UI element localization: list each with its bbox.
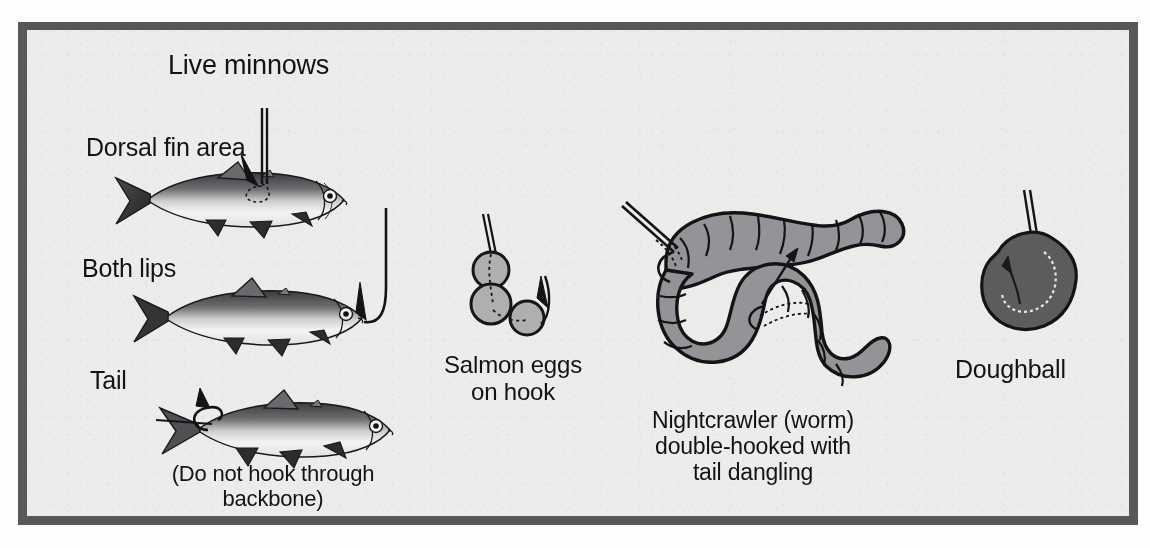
worm-stitch-middle [760, 303, 810, 326]
minnow-lips-illustration [128, 268, 388, 368]
minnow-dorsal-illustration [110, 150, 370, 250]
salmon-eggs-illustration [455, 232, 585, 352]
figure-title: Live minnows [168, 50, 329, 80]
bait-rigging-figure: Live minnows Dorsal fin area Both lips T… [0, 0, 1150, 548]
caption-salmon-eggs: Salmon eggs on hook [438, 352, 588, 406]
doughball-illustration [960, 200, 1100, 360]
label-tail: Tail [90, 366, 127, 394]
minnow-tail-illustration [148, 378, 418, 478]
caption-nightcrawler: Nightcrawler (worm) double-hooked with t… [608, 408, 898, 485]
nightcrawler-illustration [612, 190, 912, 410]
